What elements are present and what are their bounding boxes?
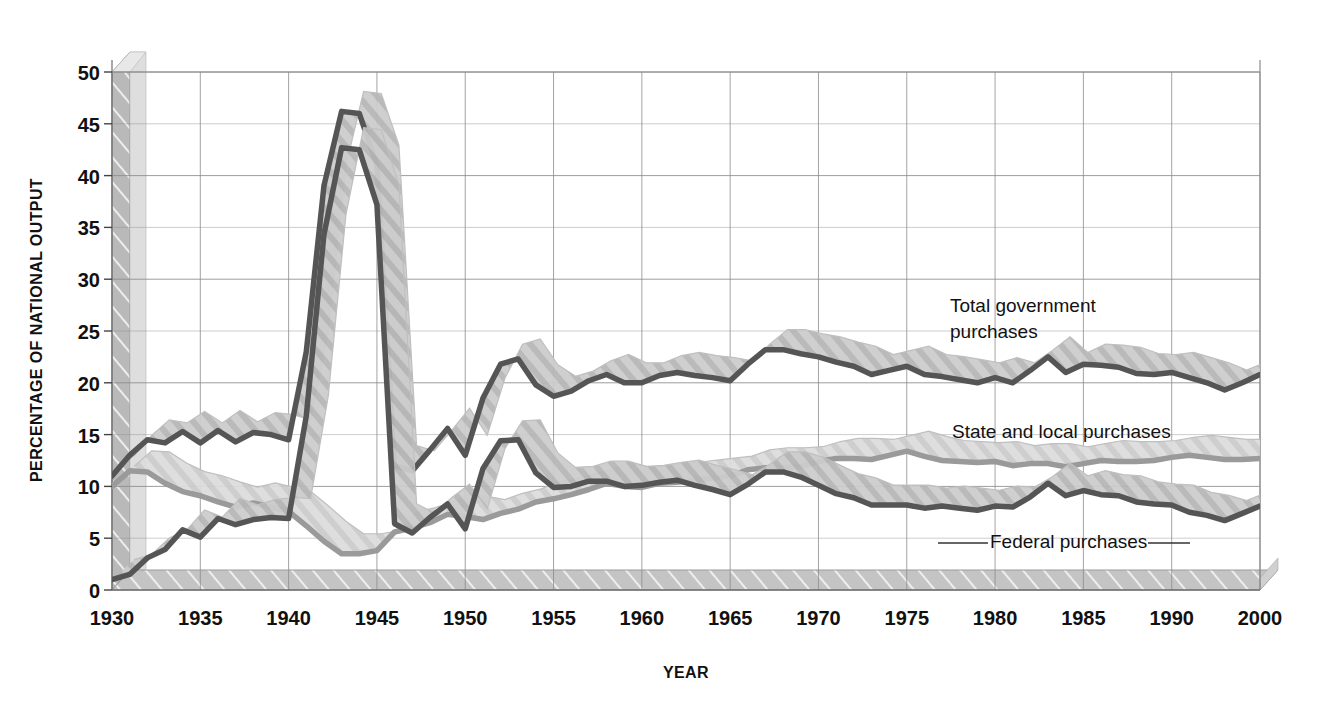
government-purchases-line-chart: 05101520253035404550 1930193519401945195… (0, 0, 1323, 707)
y-tick-label: 45 (78, 114, 100, 136)
total-government-purchases-label-line2: purchases (950, 321, 1038, 342)
y-tick-label: 20 (78, 373, 100, 395)
series-ribbon (112, 91, 1282, 476)
x-axis-tick-labels: 1930193519401945195019551960196519701975… (90, 607, 1283, 629)
y-tick-label: 25 (78, 321, 100, 343)
x-tick-label: 1965 (708, 607, 753, 629)
x-tick-label: 1985 (1061, 607, 1106, 629)
y-tick-label: 15 (78, 425, 100, 447)
y-tick-label: 10 (78, 476, 100, 498)
x-tick-label: 1970 (796, 607, 841, 629)
y-tick-label: 5 (89, 528, 100, 550)
y-axis-title: PERCENTAGE OF NATIONAL OUTPUT (28, 178, 45, 482)
axis-3d-wall (112, 52, 146, 590)
x-tick-label: 1950 (443, 607, 488, 629)
x-axis-title: YEAR (663, 664, 709, 681)
axis-3d-floor (112, 558, 1278, 590)
chart-container: 05101520253035404550 1930193519401945195… (0, 0, 1323, 707)
state-and-local-purchases-label: State and local purchases (952, 421, 1171, 442)
y-tick-label: 0 (89, 580, 100, 602)
x-tick-label: 1945 (355, 607, 400, 629)
y-tick-label: 30 (78, 269, 100, 291)
federal-purchases-label: Federal purchases (990, 531, 1147, 552)
x-tick-label: 1940 (266, 607, 311, 629)
x-tick-label: 1980 (973, 607, 1018, 629)
x-tick-label: 1930 (90, 607, 135, 629)
x-tick-label: 1935 (178, 607, 223, 629)
y-tick-label: 40 (78, 166, 100, 188)
x-tick-label: 1955 (531, 607, 576, 629)
series-annotations: Total governmentpurchasesState and local… (938, 295, 1190, 552)
x-tick-label: 1960 (620, 607, 665, 629)
y-tick-label: 35 (78, 217, 100, 239)
y-tick-label: 50 (78, 62, 100, 84)
series-layer (112, 91, 1282, 579)
total-government-purchases-label: Total government (950, 295, 1096, 316)
x-tick-label: 1990 (1149, 607, 1194, 629)
y-axis-tick-labels: 05101520253035404550 (78, 62, 112, 602)
x-tick-label: 2000 (1238, 607, 1283, 629)
x-tick-label: 1975 (885, 607, 930, 629)
